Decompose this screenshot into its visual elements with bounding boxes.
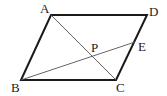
label-c: C	[116, 80, 125, 95]
label-d: D	[149, 4, 158, 19]
label-b: B	[11, 80, 20, 95]
label-p: P	[91, 40, 98, 55]
parallelogram-diagram: A D B C E P	[0, 0, 167, 96]
segment-ac	[51, 15, 116, 80]
diagram-svg: A D B C E P	[0, 0, 167, 96]
label-e: E	[138, 39, 146, 54]
label-a: A	[40, 1, 50, 16]
